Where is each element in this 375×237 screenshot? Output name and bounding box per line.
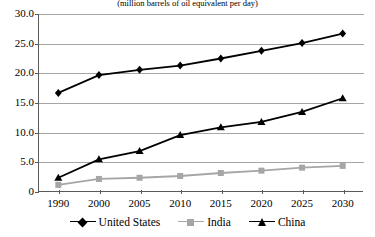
series-india <box>55 163 345 188</box>
data-point-marker <box>137 175 143 181</box>
data-point-marker <box>339 94 347 101</box>
data-point-marker <box>136 66 143 74</box>
legend-swatch-square-icon <box>178 216 204 228</box>
legend-swatch-triangle-icon <box>249 216 275 228</box>
series-united-states <box>55 30 346 97</box>
data-point-marker <box>258 47 265 55</box>
data-point-marker <box>96 176 102 182</box>
data-point-marker <box>299 39 306 47</box>
data-point-marker <box>177 173 183 179</box>
data-point-marker <box>217 55 224 63</box>
legend-item-united-states[interactable]: United States <box>70 216 161 228</box>
data-point-marker <box>55 89 62 97</box>
legend-label: India <box>207 216 231 228</box>
chart-legend: United StatesIndiaChina <box>0 216 375 228</box>
data-point-marker <box>96 71 103 79</box>
data-point-marker <box>299 165 305 171</box>
data-series-layer <box>0 0 375 237</box>
legend-marker-triangle-icon <box>258 218 266 226</box>
data-point-marker <box>55 182 61 188</box>
data-point-marker <box>218 170 224 176</box>
data-point-marker <box>258 168 264 174</box>
legend-label: China <box>278 216 305 228</box>
legend-marker-square-icon <box>187 219 194 226</box>
data-point-marker <box>340 163 346 169</box>
data-point-marker <box>339 30 346 38</box>
legend-marker-diamond-icon <box>77 218 87 228</box>
legend-swatch-diamond-icon <box>70 216 96 228</box>
legend-item-india[interactable]: India <box>178 216 231 228</box>
legend-label: United States <box>99 216 161 228</box>
chart-container: (million barrels of oil equivalent per d… <box>0 0 375 237</box>
legend-item-china[interactable]: China <box>249 216 305 228</box>
data-point-marker <box>177 62 184 70</box>
